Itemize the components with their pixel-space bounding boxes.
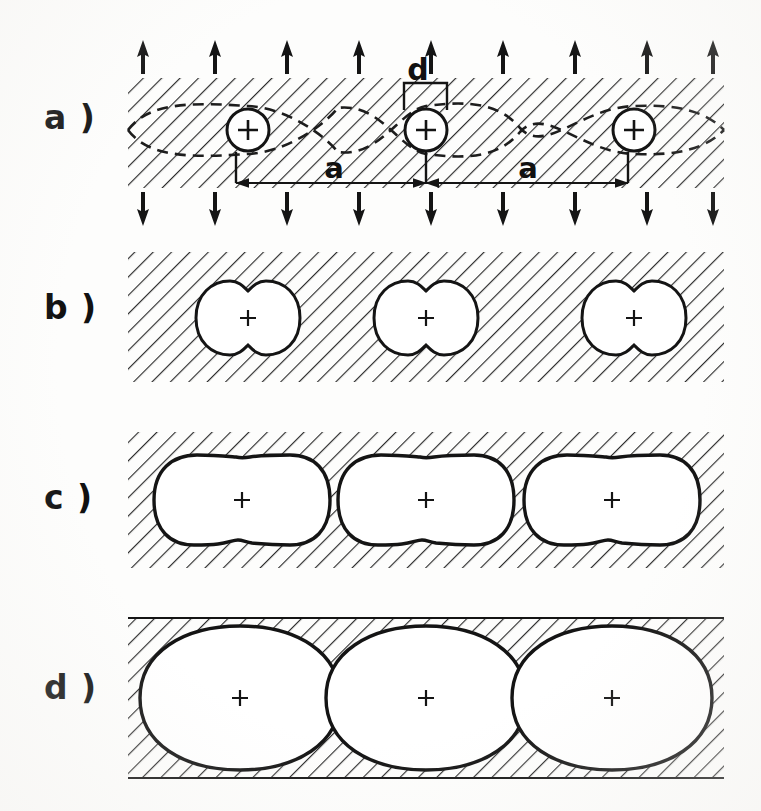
figure-root: a ) b ) c ) d ) (0, 0, 761, 811)
stress-arrow-up (281, 40, 293, 74)
figure-canvas: d a a (0, 0, 761, 811)
panel-d (128, 618, 724, 778)
stress-arrow-down (281, 192, 293, 226)
panel-c (128, 432, 724, 568)
thickness-label: d (407, 52, 428, 87)
stress-arrow-up (569, 40, 581, 74)
stress-arrows-bottom (137, 192, 719, 226)
stress-arrow-down (641, 192, 653, 226)
spacing-label-left: a (324, 151, 344, 185)
stress-arrow-down (209, 192, 221, 226)
spacing-label-right: a (518, 151, 538, 185)
stress-arrow-up (137, 40, 149, 74)
stress-arrow-down (707, 192, 719, 226)
stress-arrow-down (425, 192, 437, 226)
atom-site (405, 109, 447, 151)
atom-site (227, 109, 269, 151)
stress-arrow-down (569, 192, 581, 226)
stress-arrow-down (353, 192, 365, 226)
panel-b (128, 252, 724, 382)
cavities-b (196, 281, 686, 355)
stress-arrow-down (137, 192, 149, 226)
stress-arrow-down (497, 192, 509, 226)
thickness-bracket (404, 83, 447, 110)
stress-arrow-up (209, 40, 221, 74)
stress-arrow-up (707, 40, 719, 74)
atom-site (613, 109, 655, 151)
stress-arrow-up (641, 40, 653, 74)
stress-arrow-up (497, 40, 509, 74)
stress-arrow-up (353, 40, 365, 74)
